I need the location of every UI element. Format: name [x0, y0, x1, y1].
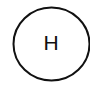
node-label: H: [43, 31, 58, 54]
node-h: H: [14, 8, 90, 81]
diagram-canvas: H: [0, 0, 90, 86]
